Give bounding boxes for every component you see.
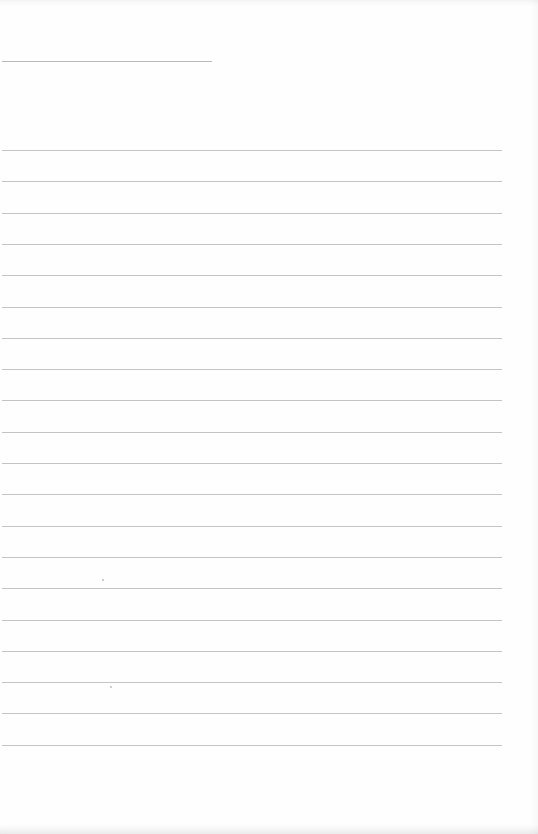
ruled-line: [2, 338, 502, 339]
ruled-line: [2, 557, 502, 558]
ruled-line: [2, 745, 502, 746]
ruled-lines-container: [0, 0, 538, 834]
ruled-line: [2, 181, 502, 182]
ruled-line: [2, 494, 502, 495]
ruled-line: [2, 526, 502, 527]
ruled-line: [2, 150, 502, 151]
ruled-line: [2, 244, 502, 245]
ruled-line: [2, 682, 502, 683]
ruled-line: [2, 588, 502, 589]
paper-speck: [102, 579, 104, 581]
paper-speck: [110, 686, 112, 688]
ruled-line: [2, 275, 502, 276]
ruled-line: [2, 432, 502, 433]
ruled-line: [2, 620, 502, 621]
ruled-line: [2, 713, 502, 714]
ruled-line: [2, 651, 502, 652]
ruled-line: [2, 307, 502, 308]
ruled-line: [2, 463, 502, 464]
ruled-line: [2, 400, 502, 401]
ruled-line: [2, 369, 502, 370]
ruled-line: [2, 213, 502, 214]
lined-paper-page: [0, 0, 538, 834]
page-bottom-shadow: [0, 824, 538, 834]
